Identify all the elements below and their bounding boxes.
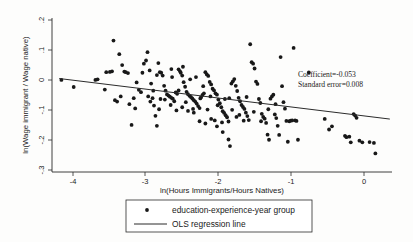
scatter-point xyxy=(151,96,155,100)
scatter-point xyxy=(203,122,207,126)
scatter-point xyxy=(163,98,167,102)
y-tick-label-4: -.2 xyxy=(37,136,46,145)
scatter-point xyxy=(162,84,166,88)
scatter-point xyxy=(323,117,327,121)
scatter-point xyxy=(373,152,377,156)
legend-label-scatter: education-experience-year group xyxy=(172,205,295,215)
scatter-point xyxy=(112,39,116,43)
scatter-point xyxy=(247,118,251,122)
scatter-point xyxy=(126,71,130,75)
scatter-point xyxy=(96,77,100,81)
scatter-point xyxy=(194,75,198,79)
x-tick-label-2: -2 xyxy=(215,177,222,186)
scatter-point xyxy=(198,119,202,123)
scatter-point xyxy=(148,69,152,73)
x-axis-title: ln(Hours Immigrants/Hours Natives) xyxy=(160,186,284,195)
standard-error-annotation: Standard error=0.008 xyxy=(298,80,363,89)
scatter-point xyxy=(235,115,239,119)
scatter-point xyxy=(292,46,296,50)
scatter-point xyxy=(230,108,234,112)
scatter-point xyxy=(188,77,192,81)
scatter-point xyxy=(252,110,256,114)
scatter-point xyxy=(155,124,159,128)
scatter-point xyxy=(245,95,249,99)
scatter-point xyxy=(279,55,283,59)
legend-label-regression: OLS regression line xyxy=(172,219,246,229)
scatter-point xyxy=(251,62,255,66)
scatter-point xyxy=(273,112,277,116)
scatter-point xyxy=(267,138,271,142)
scatter-point xyxy=(209,83,213,87)
scatter-point xyxy=(172,99,176,103)
scatter-point xyxy=(266,107,270,111)
scatter-point xyxy=(232,77,236,81)
scatter-point xyxy=(117,52,121,56)
x-tick-label-4: 0 xyxy=(362,177,366,186)
scatter-point xyxy=(148,100,152,104)
scatter-point xyxy=(245,114,249,118)
scatter-point xyxy=(183,85,187,89)
scatter-point xyxy=(215,93,219,97)
scatter-point xyxy=(154,114,158,118)
scatter-point xyxy=(209,117,213,121)
y-tick-label-0: .2 xyxy=(37,17,46,23)
scatter-point xyxy=(227,138,231,142)
y-tick-label-3: -.1 xyxy=(37,106,46,115)
scatter-point xyxy=(169,103,173,107)
scatter-point xyxy=(146,95,150,99)
scatter-point xyxy=(234,84,238,88)
scatter-point xyxy=(349,140,353,144)
scatter-point xyxy=(104,70,108,74)
scatter-point xyxy=(221,130,225,134)
scatter-point xyxy=(130,123,134,127)
scatter-point xyxy=(256,82,260,86)
y-tick-label-5: -.3 xyxy=(37,166,46,175)
scatter-point xyxy=(141,71,145,75)
scatter-point xyxy=(142,62,146,66)
x-tick-label-3: -1 xyxy=(288,177,295,186)
scatter-point xyxy=(219,105,223,109)
scatter-plot-figure: .2 .1 0 -.1 -.2 -.3 ln(Wage immigrant / … xyxy=(0,0,413,242)
x-tick-label-0: -4 xyxy=(70,177,77,186)
x-axis-ticks xyxy=(73,172,364,176)
scatter-point xyxy=(360,140,364,144)
scatter-point xyxy=(227,120,231,124)
scatter-point xyxy=(264,121,268,125)
scatter-point xyxy=(184,100,188,104)
scatter-point xyxy=(286,140,290,144)
scatter-point xyxy=(192,111,196,115)
scatter-point xyxy=(271,93,275,97)
scatter-point xyxy=(133,107,137,111)
scatter-point xyxy=(330,124,334,128)
scatter-point xyxy=(202,91,206,95)
scatter-point xyxy=(149,82,153,86)
y-axis-ticks xyxy=(48,20,52,170)
scatter-point xyxy=(206,74,210,78)
scatter-point xyxy=(263,117,267,121)
scatter-point xyxy=(296,138,300,142)
y-axis-title: ln(Wage immigrant / Wage native) xyxy=(21,36,30,154)
scatter-point xyxy=(186,109,190,113)
y-tick-label-2: 0 xyxy=(37,78,46,82)
scatter-point xyxy=(228,144,232,148)
scatter-point xyxy=(169,67,173,71)
scatter-point xyxy=(144,59,148,63)
scatter-point xyxy=(180,105,184,109)
x-tick-label-1: -3 xyxy=(142,177,149,186)
scatter-point xyxy=(201,84,205,88)
scatter-point xyxy=(177,89,181,93)
scatter-point xyxy=(220,120,224,124)
scatter-point xyxy=(132,96,136,100)
scatter-point xyxy=(235,89,239,93)
scatter-point xyxy=(155,73,159,77)
scatter-point xyxy=(243,107,247,111)
scatter-point xyxy=(72,85,76,89)
scatter-point xyxy=(191,107,195,111)
scatter-point xyxy=(119,95,123,99)
scatter-point xyxy=(259,119,263,123)
scatter-point xyxy=(135,81,139,85)
scatter-point xyxy=(103,88,107,92)
scatter-point xyxy=(347,135,351,139)
scatter-point xyxy=(161,74,165,78)
scatter-point xyxy=(282,100,286,104)
